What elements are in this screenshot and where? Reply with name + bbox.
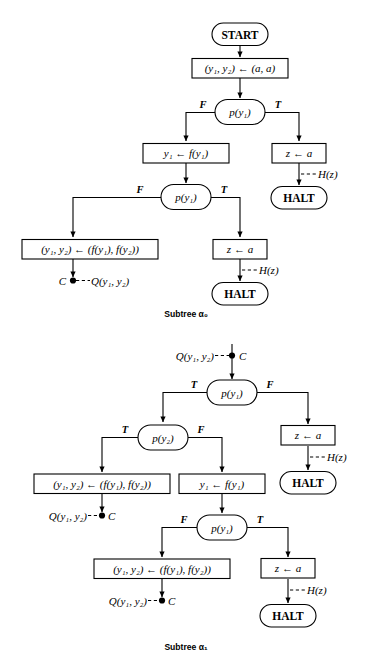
caption-subtree-alpha1: Subtree α₁ <box>164 642 208 652</box>
init-assign-label: (y₁, y₂) ← (a, a) <box>205 62 276 75</box>
node-a1-predicate-1[interactable]: p(y₁) <box>207 380 257 405</box>
edge-a1-pred3-false <box>162 528 197 558</box>
a1-output-h-2: H(z) <box>306 584 327 597</box>
edge-pred1-true <box>265 113 299 142</box>
a1-predicate-2-label: p(y₂) <box>151 432 174 445</box>
halt-2-label: HALT <box>224 288 256 300</box>
a1-assign-pair-1-label: (y₁, y₂) ← (f(y₁), f(y₂)) <box>53 478 151 491</box>
caption-subtree-alpha0: Subtree α₀ <box>164 309 208 319</box>
output-label-q-1: Q(y₁, y₂) <box>91 275 130 288</box>
edge-a1-pred2-true <box>102 438 138 473</box>
a1-halt-1-label: HALT <box>292 477 324 489</box>
node-predicate-2[interactable]: p(y₁) <box>161 185 211 210</box>
node-start[interactable]: START <box>212 23 268 46</box>
branch-label-false: F <box>198 99 206 110</box>
edge-a1-pred2-false <box>188 438 222 473</box>
halt-1-label: HALT <box>283 192 315 204</box>
a1-assign-pair-2-label: (y₁, y₂) ← (f(y₁), f(y₂)) <box>113 563 211 576</box>
a1-output-h-1: H(z) <box>326 451 347 464</box>
edge-a1-pred3-true <box>247 528 288 558</box>
a1-branch-true-1: T <box>191 379 198 390</box>
connector-in-dot <box>229 352 235 358</box>
node-a1-assign-pair-1[interactable]: (y₁, y₂) ← (f(y₁), f(y₂)) <box>34 474 170 494</box>
node-halt-1[interactable]: HALT <box>271 187 327 210</box>
edge-a1-pred1-false <box>257 393 308 425</box>
assign-pair-label: (y₁, y₂) ← (f(y₁), f(y₂)) <box>41 243 139 256</box>
a1-assign-z-2-label: z ← a <box>274 562 302 574</box>
node-a1-predicate-3[interactable]: p(y₁) <box>197 515 247 540</box>
edge-pred2-true <box>211 198 240 238</box>
a1-branch-true-3: T <box>257 514 264 525</box>
node-a1-predicate-2[interactable]: p(y₂) <box>138 425 188 450</box>
node-a1-assign-y1[interactable]: y₁ ← f(y₁) <box>179 474 265 494</box>
output-label-h-2: H(z) <box>258 264 279 277</box>
subtree-alpha0: START (y₁, y₂) ← (a, a) p(y₁) F T y₁ ← f… <box>22 23 338 319</box>
a1-connector-dot-2 <box>159 597 165 603</box>
node-assign-pair[interactable]: (y₁, y₂) ← (f(y₁), f(y₂)) <box>22 240 158 260</box>
input-label-q: Q(y₁, y₂) <box>176 350 215 363</box>
branch-label-false-2: F <box>135 184 143 195</box>
start-label: START <box>221 29 258 41</box>
a1-connector-dot-1 <box>99 512 105 518</box>
a1-connector-c-label-2: C <box>168 595 176 607</box>
branch-label-true-2: T <box>221 184 228 195</box>
a1-assign-z-1-label: z ← a <box>294 429 322 441</box>
a1-output-q-1: Q(y₁, y₂) <box>49 510 88 523</box>
a1-halt-2-label: HALT <box>272 610 304 622</box>
a1-connector-c-label-1: C <box>108 510 116 522</box>
assign-y1-label: y₁ ← f(y₁) <box>163 147 209 160</box>
edge-pred1-false <box>186 113 215 142</box>
node-init-assign[interactable]: (y₁, y₂) ← (a, a) <box>192 59 288 79</box>
node-assign-y1[interactable]: y₁ ← f(y₁) <box>143 144 229 164</box>
node-assign-z-2[interactable]: z ← a <box>213 240 267 260</box>
output-label-h-1: H(z) <box>317 168 338 181</box>
node-a1-assign-pair-2[interactable]: (y₁, y₂) ← (f(y₁), f(y₂)) <box>94 559 230 579</box>
node-predicate-1[interactable]: p(y₁) <box>215 100 265 125</box>
predicate-2-label: p(y₁) <box>174 191 197 204</box>
flowchart-diagram: START (y₁, y₂) ← (a, a) p(y₁) F T y₁ ← f… <box>0 0 374 663</box>
a1-output-q-2: Q(y₁, y₂) <box>109 595 148 608</box>
predicate-1-label: p(y₁) <box>228 106 251 119</box>
edge-pred2-false <box>73 198 161 238</box>
connector-c-label: C <box>59 275 67 287</box>
assign-z-2-label: z ← a <box>226 243 254 255</box>
a1-predicate-3-label: p(y₁) <box>210 522 233 535</box>
a1-assign-y1-label: y₁ ← f(y₁) <box>199 478 245 491</box>
assign-z-1-label: z ← a <box>285 147 313 159</box>
node-halt-2[interactable]: HALT <box>212 283 268 306</box>
branch-label-true: T <box>275 99 282 110</box>
subtree-alpha1: C Q(y₁, y₂) p(y₁) T F p(y₂) T F z ← a H(… <box>34 344 347 652</box>
a1-branch-true-2: T <box>122 424 129 435</box>
connector-in-label: C <box>239 350 247 362</box>
a1-predicate-1-label: p(y₁) <box>220 387 243 400</box>
node-a1-halt-2[interactable]: HALT <box>260 605 316 628</box>
a1-branch-false-1: F <box>265 379 273 390</box>
connector-dot <box>70 277 76 283</box>
node-a1-assign-z-2[interactable]: z ← a <box>261 559 315 579</box>
node-a1-halt-1[interactable]: HALT <box>280 472 336 495</box>
a1-branch-false-3: F <box>179 514 187 525</box>
node-a1-assign-z-1[interactable]: z ← a <box>281 426 335 446</box>
edge-a1-pred1-true <box>163 393 207 423</box>
a1-branch-false-2: F <box>196 424 204 435</box>
node-assign-z-1[interactable]: z ← a <box>272 144 326 164</box>
